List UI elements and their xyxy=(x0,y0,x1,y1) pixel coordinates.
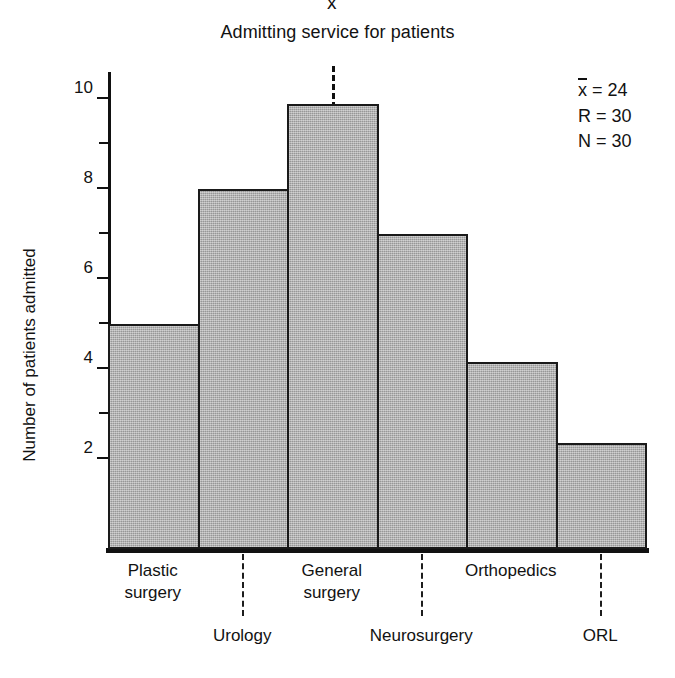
category-leader-line xyxy=(600,554,602,616)
y-axis-minor-tick xyxy=(99,142,108,144)
x-axis-category-label: ORL xyxy=(583,625,618,647)
category-label-line: surgery xyxy=(302,582,362,604)
y-axis-tick xyxy=(97,277,108,279)
category-leader-line xyxy=(421,554,423,616)
y-axis-title: Number of patients admitted xyxy=(20,175,40,535)
bar xyxy=(198,189,290,549)
category-label-line: Neurosurgery xyxy=(370,625,473,647)
category-label-line: ORL xyxy=(583,625,618,647)
category-label-line: surgery xyxy=(124,582,181,604)
category-label-line: Plastic xyxy=(124,560,181,582)
y-axis-tick-label: 4 xyxy=(84,348,93,368)
bar xyxy=(108,324,200,549)
y-axis-minor-tick xyxy=(99,232,108,234)
bar xyxy=(287,104,379,550)
y-axis-minor-tick xyxy=(99,412,108,414)
y-axis-minor-tick xyxy=(99,322,108,324)
y-axis-tick-label: 2 xyxy=(84,438,93,458)
category-label-line: Orthopedics xyxy=(465,560,557,582)
x-axis-category-label: Generalsurgery xyxy=(302,560,362,605)
chart-figure: Admitting service for patients Number of… xyxy=(0,0,675,678)
stat-count: N = 30 xyxy=(578,129,632,155)
y-axis-tick-label: 10 xyxy=(74,78,93,98)
category-label-line: Urology xyxy=(213,625,272,647)
category-leader-line xyxy=(242,554,244,616)
chart-title: Admitting service for patients xyxy=(0,22,675,43)
y-axis-tick-label: 8 xyxy=(84,168,93,188)
mean-marker-label: x xyxy=(327,0,337,14)
y-axis-tick xyxy=(97,367,108,369)
x-axis-category-label: Neurosurgery xyxy=(370,625,473,647)
stat-mean-value: = 24 xyxy=(587,80,628,100)
stat-range: R = 30 xyxy=(578,104,632,130)
x-axis-category-label: Orthopedics xyxy=(465,560,557,582)
y-axis-tick xyxy=(97,97,108,99)
x-axis-category-label: Plasticsurgery xyxy=(124,560,181,605)
category-label-line: General xyxy=(302,560,362,582)
x-axis-category-labels: PlasticsurgeryUrologyGeneralsurgeryNeuro… xyxy=(108,552,653,678)
y-axis-tick-label: 6 xyxy=(84,258,93,278)
bar-series xyxy=(108,72,645,549)
statistics-annotation: x = 24 R = 30 N = 30 xyxy=(578,78,632,155)
x-axis-category-label: Urology xyxy=(213,625,272,647)
bar xyxy=(377,234,469,549)
bar xyxy=(556,443,648,549)
y-axis-tick xyxy=(97,457,108,459)
bar xyxy=(466,362,558,549)
mean-symbol: x xyxy=(327,0,337,13)
y-axis-tick xyxy=(97,187,108,189)
plot-area: 246810 x xyxy=(108,72,645,549)
stat-mean-symbol: x xyxy=(578,78,587,100)
stat-mean: x = 24 xyxy=(578,78,632,104)
